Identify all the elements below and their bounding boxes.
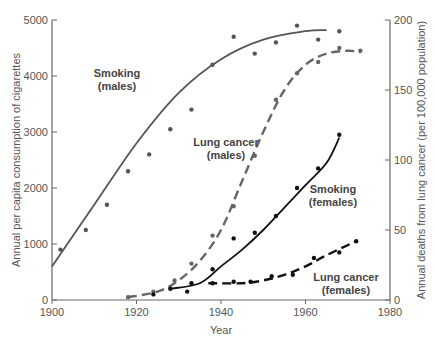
- svg-text:Lung cancer: Lung cancer: [313, 271, 379, 283]
- curve-lung-cancer-males: [128, 51, 360, 297]
- annotation-lung-cancer-females: Lung cancer (females): [313, 271, 379, 296]
- x-tick-label: 1940: [209, 306, 233, 318]
- data-point-smoking-females: [316, 166, 320, 170]
- svg-text:(males): (males): [98, 80, 137, 92]
- data-point-smoking-females: [231, 236, 235, 240]
- data-point-smoking-females: [337, 133, 341, 137]
- data-point-lung-cancer-females: [337, 250, 341, 254]
- data-point-smoking-females: [295, 186, 299, 190]
- data-point-lung-cancer-females: [291, 273, 295, 277]
- data-point-smoking-males: [84, 228, 88, 232]
- svg-text:(females): (females): [309, 196, 358, 208]
- data-point-lung-cancer-females: [231, 280, 235, 284]
- data-point-smoking-males: [337, 29, 341, 33]
- y-left-tick-label: 1000: [24, 238, 48, 250]
- svg-text:(males): (males): [207, 149, 246, 161]
- data-point-smoking-females: [185, 289, 189, 293]
- x-tick-label: 1960: [293, 306, 317, 318]
- data-point-smoking-females: [189, 281, 193, 285]
- data-point-smoking-males: [295, 23, 299, 27]
- data-point-lung-cancer-females: [312, 256, 316, 260]
- data-point-smoking-males: [58, 247, 62, 251]
- y-right-tick-label: 0: [394, 294, 400, 306]
- data-point-smoking-females: [210, 267, 214, 271]
- data-point-lung-cancer-males: [358, 49, 362, 53]
- svg-text:Smoking: Smoking: [310, 183, 356, 195]
- data-point-lung-cancer-males: [253, 154, 257, 158]
- data-point-lung-cancer-males: [274, 98, 278, 102]
- data-point-smoking-males: [189, 107, 193, 111]
- data-point-lung-cancer-females: [354, 239, 358, 243]
- data-point-lung-cancer-males: [172, 278, 176, 282]
- svg-text:Smoking: Smoking: [94, 67, 140, 79]
- data-point-smoking-females: [168, 287, 172, 291]
- data-point-lung-cancer-females: [270, 274, 274, 278]
- svg-text:(females): (females): [322, 284, 371, 296]
- annotation-smoking-females: Smoking (females): [309, 183, 358, 208]
- data-point-smoking-males: [253, 51, 257, 55]
- y-right-tick-label: 150: [394, 84, 412, 96]
- data-point-lung-cancer-males: [189, 261, 193, 265]
- data-point-smoking-males: [105, 203, 109, 207]
- y-left-tick-label: 2000: [24, 182, 48, 194]
- y-left-tick-label: 3000: [24, 126, 48, 138]
- x-tick-label: 1900: [40, 306, 64, 318]
- y-axis-left-label: Annual per capita consumption of cigaret…: [10, 52, 22, 267]
- data-point-smoking-females: [151, 292, 155, 296]
- y-right-tick-label: 100: [394, 154, 412, 166]
- x-axis-label: Year: [210, 324, 233, 336]
- data-point-lung-cancer-females: [248, 280, 252, 284]
- data-point-smoking-males: [316, 37, 320, 41]
- y-left-tick-label: 0: [42, 294, 48, 306]
- data-point-lung-cancer-males: [210, 233, 214, 237]
- chart: 1900192019401960198001000200030004000500…: [0, 0, 435, 343]
- data-point-smoking-females: [274, 214, 278, 218]
- y-axis-right-label: Annual deaths from lung cancer (per 100,…: [415, 21, 427, 299]
- data-point-smoking-males: [274, 40, 278, 44]
- x-tick-label: 1920: [124, 306, 148, 318]
- svg-text:Lung cancer: Lung cancer: [193, 136, 259, 148]
- data-point-lung-cancer-females: [210, 281, 214, 285]
- series-points: [58, 23, 362, 299]
- y-left-tick-label: 5000: [24, 14, 48, 26]
- data-point-smoking-males: [126, 169, 130, 173]
- data-point-lung-cancer-males: [231, 204, 235, 208]
- data-point-smoking-males: [168, 127, 172, 131]
- data-point-smoking-males: [147, 152, 151, 156]
- y-left-tick-label: 4000: [24, 70, 48, 82]
- tick-marks: [52, 20, 390, 304]
- x-tick-label: 1980: [378, 306, 402, 318]
- data-point-lung-cancer-males: [316, 60, 320, 64]
- annotation-lung-cancer-males: Lung cancer (males): [193, 136, 259, 161]
- data-point-lung-cancer-males: [337, 46, 341, 50]
- data-point-lung-cancer-males: [295, 71, 299, 75]
- data-point-lung-cancer-males: [126, 295, 130, 299]
- y-right-tick-label: 200: [394, 14, 412, 26]
- data-point-smoking-females: [253, 231, 257, 235]
- y-right-tick-label: 50: [394, 224, 406, 236]
- curve-smoking-males: [52, 30, 327, 266]
- data-point-smoking-males: [210, 63, 214, 67]
- annotation-smoking-males: Smoking (males): [94, 67, 140, 92]
- data-point-smoking-males: [231, 35, 235, 39]
